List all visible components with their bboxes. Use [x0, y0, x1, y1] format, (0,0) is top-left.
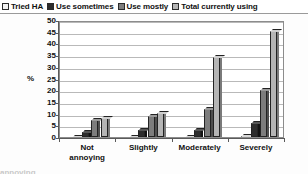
- bar-face: [204, 109, 211, 137]
- y-axis-tick-label: 0: [4, 134, 56, 142]
- gridline: [60, 22, 283, 23]
- gridline: [60, 92, 283, 93]
- y-axis-tick-label: 50: [4, 17, 56, 25]
- x-axis-tick-mark: [284, 138, 285, 142]
- y-axis-title: %: [27, 74, 34, 83]
- y-axis-tick-label: 15: [4, 99, 56, 107]
- bar-1-0: [129, 135, 138, 137]
- x-axis-tick-mark: [115, 138, 116, 142]
- y-axis-tick-label: 20: [4, 87, 56, 95]
- gridline: [60, 116, 283, 117]
- x-axis-tick-label-line: Not: [80, 143, 93, 152]
- legend-label: Use mostly: [127, 2, 169, 11]
- x-axis-tick-mark: [172, 138, 173, 142]
- bar-top: [270, 29, 282, 32]
- legend-item-total-currently-using[interactable]: Total currently using: [172, 2, 257, 11]
- x-axis-tick-mark: [228, 138, 229, 142]
- bar-top: [101, 116, 113, 119]
- x-axis-tick-label-line: annoying: [69, 153, 105, 162]
- x-axis-tick-label: Slightly: [116, 143, 170, 153]
- bar-face: [213, 57, 220, 137]
- square-swatch-icon: [172, 3, 179, 10]
- bar-side: [220, 57, 222, 137]
- bar-2-2: [204, 107, 213, 137]
- gridline: [60, 81, 283, 82]
- x-axis-tick-label: Severely: [229, 143, 283, 153]
- x-axis-tick-label: Moderately: [173, 143, 227, 153]
- y-axis-tick-label: 30: [4, 64, 56, 72]
- square-swatch-icon: [118, 3, 125, 10]
- y-axis-tick-label: 5: [4, 122, 56, 130]
- bar-side: [164, 113, 166, 137]
- x-axis-tick-label: Notannoying: [60, 143, 114, 163]
- bar-face: [91, 120, 98, 137]
- legend-item-use-mostly[interactable]: Use mostly: [118, 2, 169, 11]
- bar-2-1: [194, 128, 203, 137]
- bar-face: [157, 113, 164, 137]
- bar-0-3: [101, 116, 110, 137]
- y-axis-tick-label: 45: [4, 29, 56, 37]
- cut-off-footer-text: annoying: [0, 168, 308, 174]
- y-axis-tick-label: 10: [4, 111, 56, 119]
- bar-side: [277, 31, 279, 137]
- y-axis-tick-label: 40: [4, 40, 56, 48]
- bar-top: [157, 111, 169, 114]
- bar-face: [148, 116, 155, 137]
- y-axis-tick-label: 35: [4, 52, 56, 60]
- bar-face: [101, 118, 108, 137]
- bar-1-2: [148, 114, 157, 137]
- plot-background: [59, 21, 284, 138]
- bar-3-3: [270, 29, 279, 137]
- bar-side: [108, 118, 110, 137]
- bar-face: [251, 123, 258, 137]
- bar-2-0: [185, 135, 194, 137]
- bar-3-1: [251, 121, 260, 137]
- y-axis: 50454035302520151050: [0, 0, 56, 174]
- x-axis-tick-mark: [59, 138, 60, 142]
- bar-2-3: [213, 55, 222, 137]
- legend-item-use-sometimes[interactable]: Use sometimes: [47, 2, 113, 11]
- bar-3-0: [241, 134, 250, 138]
- bar-0-2: [91, 118, 100, 137]
- plot-area: [59, 21, 284, 138]
- bar-face: [260, 90, 267, 137]
- gridline: [60, 57, 283, 58]
- bar-0-0: [72, 135, 81, 137]
- bar-3-2: [260, 88, 269, 137]
- bar-face: [270, 31, 277, 137]
- gridline: [60, 45, 283, 46]
- legend-label: Use sometimes: [56, 2, 113, 11]
- bar-1-3: [157, 111, 166, 137]
- bar-1-1: [138, 128, 147, 137]
- gridline: [60, 69, 283, 70]
- legend-label: Total currently using: [181, 2, 257, 11]
- gridline: [60, 34, 283, 35]
- bar-0-1: [82, 130, 91, 137]
- chart-figure: Tried HA Use sometimes Use mostly Total …: [0, 0, 308, 174]
- gridline: [60, 104, 283, 105]
